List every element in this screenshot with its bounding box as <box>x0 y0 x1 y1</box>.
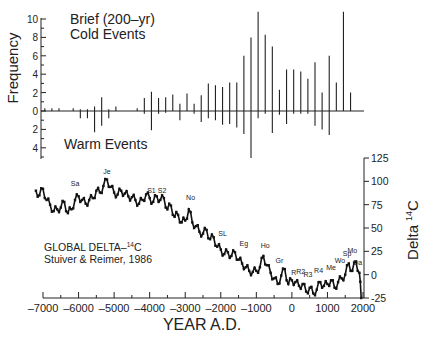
delta14c-panel: 1251007550250-25 SaJeS1S2NoSLEgHoGrRR2R3… <box>35 152 421 304</box>
event-label: Gr <box>276 257 284 264</box>
frequency-tick-label: 2 <box>32 124 38 135</box>
event-label: Sa <box>71 180 80 187</box>
x-ticks: –7000–6000–5000–4000–3000–2000–100001000… <box>28 292 376 314</box>
event-label: SL <box>218 230 227 237</box>
delta-axis-label: Delta14C <box>404 200 421 260</box>
x-tick-label: –6000 <box>63 302 94 314</box>
x-axis-label: YEAR A.D. <box>163 316 241 333</box>
x-axis: –7000–6000–5000–4000–3000–2000–100001000… <box>28 292 376 333</box>
frequency-tick-label: 10 <box>27 14 39 25</box>
x-tick-label: –2000 <box>205 302 236 314</box>
frequency-tick-label: 2 <box>32 88 38 99</box>
cold-events-title-line2: Cold Events <box>70 26 145 42</box>
event-label: Da <box>353 259 362 266</box>
event-label: S2 <box>158 187 167 194</box>
event-label: R4 <box>314 267 323 274</box>
cold-events-title-line1: Brief (200–yr) <box>70 11 155 27</box>
delta14c-line <box>35 178 363 299</box>
frequency-tick-label: 8 <box>32 32 38 43</box>
frequency-y-ticks: 108642024 <box>27 14 46 157</box>
frequency-tick-label: 4 <box>32 143 38 154</box>
x-tick-label: –5000 <box>99 302 130 314</box>
x-tick-label: –1000 <box>241 302 272 314</box>
warm-events-label: Warm Events <box>64 136 148 152</box>
x-tick-label: –7000 <box>28 302 59 314</box>
legend-title: GLOBAL DELTA–14C <box>44 241 142 253</box>
x-tick-label: 2000 <box>351 302 375 314</box>
event-label: Wo <box>335 257 345 264</box>
x-tick-label: 1000 <box>315 302 339 314</box>
frequency-tick-label: 4 <box>32 69 38 80</box>
delta-tick-label: 50 <box>371 222 383 234</box>
delta-tick-label: 0 <box>371 269 377 281</box>
x-tick-label: –4000 <box>134 302 165 314</box>
frequency-tick-label: 0 <box>32 106 38 117</box>
event-label: R3 <box>303 271 312 278</box>
event-label: Mo <box>347 247 357 254</box>
x-tick-label: –3000 <box>170 302 201 314</box>
event-label: Ho <box>261 242 270 249</box>
frequency-tick-label: 6 <box>32 51 38 62</box>
x-tick-label: 0 <box>289 302 295 314</box>
event-label: Me <box>326 264 336 271</box>
delta-tick-label: 25 <box>371 245 383 257</box>
delta-y-ticks: 1251007550250-25 <box>364 152 389 304</box>
delta-tick-label: 125 <box>371 152 389 164</box>
event-label: Eg <box>240 240 249 248</box>
frequency-panel: 108642024 Frequency Brief (200–yr) Cold … <box>4 11 364 159</box>
event-label: No <box>186 194 195 201</box>
event-label: Je <box>103 168 111 175</box>
frequency-axis-label: Frequency <box>4 32 21 103</box>
delta-tick-label: 100 <box>371 175 389 187</box>
event-label: S1 <box>147 187 156 194</box>
figure: 108642024 Frequency Brief (200–yr) Cold … <box>0 0 430 338</box>
legend-source: Stuiver & Reimer, 1986 <box>44 253 152 265</box>
delta-tick-label: 75 <box>371 199 383 211</box>
